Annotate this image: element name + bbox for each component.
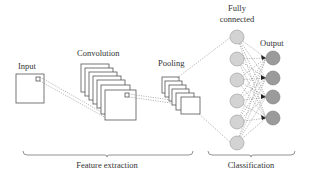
fc-node — [230, 94, 244, 108]
convolution-label: Convolution — [77, 48, 120, 58]
output-node — [266, 51, 280, 65]
fully-connected-layer: Fully connected — [220, 3, 255, 150]
feature-extraction-group: Feature extraction — [23, 151, 193, 170]
classification-label: Classification — [228, 160, 275, 170]
fc-node — [230, 73, 244, 87]
output-node — [266, 111, 280, 125]
classification-group: Classification — [208, 151, 295, 170]
fc-node — [230, 136, 244, 150]
feature-extraction-brace — [23, 151, 193, 157]
output-node — [266, 90, 280, 104]
feature-extraction-label: Feature extraction — [76, 160, 138, 170]
feature-map — [105, 90, 136, 120]
output-label: Output — [260, 38, 284, 48]
pooling-layer: Pooling — [158, 58, 200, 114]
input-receptive-field — [36, 77, 40, 81]
fc-node — [230, 52, 244, 66]
fc-node — [230, 30, 244, 44]
input-label: Input — [18, 61, 37, 71]
pooled-map — [181, 97, 200, 114]
pooling-label: Pooling — [158, 58, 185, 68]
fc-node — [230, 115, 244, 129]
output-node — [266, 71, 280, 85]
cnn-architecture-diagram: Input Convolution Pooling — [0, 0, 311, 178]
convolution-layer: Convolution — [77, 48, 136, 120]
fully-connected-label-line1: Fully — [228, 3, 247, 13]
classification-brace — [208, 151, 295, 157]
conv-receptive-field — [125, 93, 129, 97]
fully-connected-label-line2: connected — [220, 14, 255, 24]
input-layer: Input — [16, 61, 44, 103]
